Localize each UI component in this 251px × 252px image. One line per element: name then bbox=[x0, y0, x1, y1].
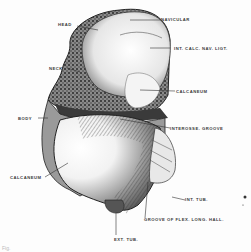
figure-caption: Fig. bbox=[2, 245, 10, 251]
label-ext-tub: EXT. TUB. bbox=[114, 237, 138, 242]
label-interosse-groove: INTEROSSE. GROOVE bbox=[170, 126, 223, 131]
label-navicular: NAVICULAR bbox=[161, 17, 190, 22]
anatomy-figure: HEAD NAVICULAR INT. CALC. NAV. LIGT. NEC… bbox=[0, 0, 251, 252]
label-calcaneum-lower: CALCANEUM bbox=[10, 175, 41, 180]
label-head: HEAD bbox=[58, 22, 72, 27]
label-groove-flex: GROOVE OF FLEX. LONG. HALL. bbox=[144, 217, 224, 222]
label-calcaneum-upper: CALCANEUM bbox=[176, 89, 207, 94]
label-body: BODY bbox=[18, 116, 32, 121]
label-int-calc-nav-ligt: INT. CALC. NAV. LIGT. bbox=[174, 46, 228, 51]
label-neck: NECK bbox=[49, 66, 63, 71]
label-int-tub: INT. TUB. bbox=[185, 197, 208, 202]
ext-tubercle bbox=[105, 200, 124, 213]
